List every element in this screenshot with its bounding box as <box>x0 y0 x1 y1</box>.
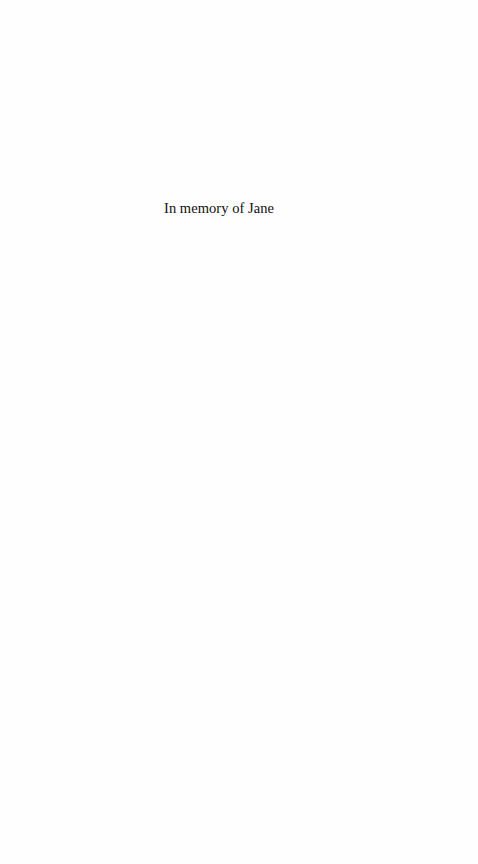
dedication-text: In memory of Jane <box>164 199 274 217</box>
book-page: In memory of Jane <box>0 0 478 864</box>
